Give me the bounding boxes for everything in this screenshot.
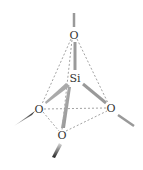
atom-si: Si: [69, 72, 81, 85]
atom-front-o: O: [57, 129, 66, 142]
left-outer-wedge: [14, 111, 35, 126]
atom-top-o: O: [69, 29, 78, 42]
si-right-bond: [83, 84, 106, 103]
front-outer-wedge: [52, 143, 62, 158]
atom-left-o: O: [34, 103, 43, 116]
right-outer-bond: [118, 115, 134, 126]
silicate-tetrahedron-diagram: O Si O O O: [0, 0, 143, 170]
atom-right-o: O: [106, 102, 115, 115]
